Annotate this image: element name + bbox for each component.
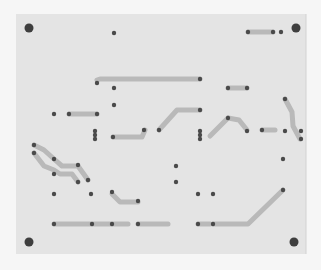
solder-pad xyxy=(86,178,90,182)
solder-pad xyxy=(226,86,230,90)
solder-pad xyxy=(110,190,114,194)
solder-pad xyxy=(112,103,116,107)
solder-pad xyxy=(52,112,56,116)
solder-pad xyxy=(245,86,249,90)
hole-top-right xyxy=(292,24,301,33)
solder-pad xyxy=(90,222,94,226)
solder-pad xyxy=(198,108,202,112)
solder-pad xyxy=(279,30,283,34)
solder-pad xyxy=(198,129,202,133)
solder-pad xyxy=(226,116,230,120)
solder-pad xyxy=(211,192,215,196)
hole-bottom-right xyxy=(290,238,299,247)
pcb-board-view xyxy=(0,0,321,270)
solder-pad xyxy=(52,222,56,226)
solder-pad xyxy=(76,163,80,167)
hole-top-left xyxy=(25,24,34,33)
solder-pad xyxy=(198,137,202,141)
solder-pad xyxy=(93,133,97,137)
solder-pad xyxy=(281,188,285,192)
solder-pad xyxy=(111,135,115,139)
solder-pad xyxy=(198,133,202,137)
solder-pad xyxy=(76,180,80,184)
pcb-layout xyxy=(0,0,321,270)
solder-pad xyxy=(283,129,287,133)
solder-pad xyxy=(174,164,178,168)
solder-pad xyxy=(281,157,285,161)
solder-pad xyxy=(32,143,36,147)
solder-pad xyxy=(142,128,146,132)
copper-trace xyxy=(97,79,200,80)
solder-pad xyxy=(198,77,202,81)
solder-pad xyxy=(112,86,116,90)
solder-pad xyxy=(260,128,264,132)
solder-pad xyxy=(32,151,36,155)
solder-pad xyxy=(112,31,116,35)
solder-pad xyxy=(196,222,200,226)
solder-pad xyxy=(271,30,275,34)
solder-pad xyxy=(93,129,97,133)
solder-pad xyxy=(110,222,114,226)
solder-pad xyxy=(52,157,56,161)
solder-pad xyxy=(136,199,140,203)
solder-pad xyxy=(211,222,215,226)
solder-pad xyxy=(52,192,56,196)
solder-pad xyxy=(95,81,99,85)
board-substrate xyxy=(16,14,306,254)
solder-pad xyxy=(174,180,178,184)
solder-pad xyxy=(157,128,161,132)
hole-bottom-left xyxy=(25,238,34,247)
solder-pad xyxy=(245,129,249,133)
solder-pad xyxy=(299,129,303,133)
solder-pad xyxy=(246,30,250,34)
solder-pad xyxy=(283,97,287,101)
solder-pad xyxy=(136,222,140,226)
solder-pad xyxy=(93,137,97,141)
solder-pad xyxy=(52,172,56,176)
solder-pad xyxy=(89,192,93,196)
solder-pad xyxy=(95,112,99,116)
solder-pad xyxy=(196,192,200,196)
solder-pad xyxy=(299,137,303,141)
solder-pad xyxy=(67,112,71,116)
